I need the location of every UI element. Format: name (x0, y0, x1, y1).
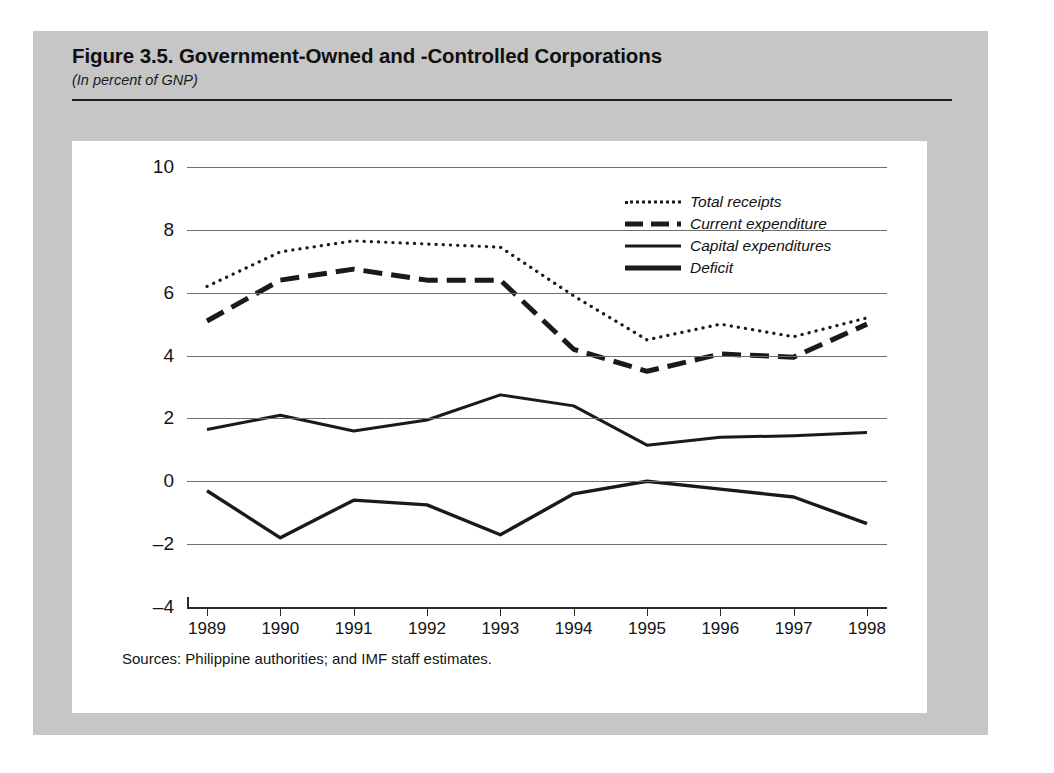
x-axis-tick-label: 1989 (188, 619, 226, 639)
legend-swatch-dashed-icon (625, 217, 681, 231)
chart-legend: Total receipts Current expenditure Capit… (625, 191, 831, 279)
x-axis-tick-mark (280, 607, 281, 616)
y-axis-stub (187, 597, 189, 609)
legend-item: Deficit (625, 257, 831, 279)
x-axis-tick-label: 1994 (555, 619, 593, 639)
x-axis-tick-label: 1990 (261, 619, 299, 639)
title-divider (72, 99, 952, 101)
x-axis-tick-mark (500, 607, 501, 616)
x-axis-tick-mark (354, 607, 355, 616)
x-axis-tick-label: 1992 (408, 619, 446, 639)
legend-label: Deficit (690, 259, 733, 277)
legend-label: Capital expenditures (690, 237, 831, 255)
series-line-deficit (207, 481, 867, 538)
legend-swatch-dotted-icon (625, 195, 681, 209)
y-axis-tick-label: 2 (163, 407, 174, 429)
gridline (187, 544, 887, 545)
gridline (187, 167, 887, 168)
x-axis-tick-mark (867, 607, 868, 616)
legend-swatch-thin-solid-icon (625, 239, 681, 253)
y-axis-tick-label: 0 (163, 470, 174, 492)
x-axis-tick-mark (574, 607, 575, 616)
y-axis-tick-label: 6 (163, 282, 174, 304)
y-axis-tick-label: –2 (153, 533, 174, 555)
x-axis-tick-label: 1991 (335, 619, 373, 639)
legend-swatch-thick-solid-icon (625, 261, 681, 275)
x-axis-tick-mark (720, 607, 721, 616)
x-axis-tick-label: 1996 (701, 619, 739, 639)
gridline (187, 481, 887, 482)
series-line-capital-expenditures (207, 395, 867, 445)
source-note: Sources: Philippine authorities; and IMF… (122, 650, 492, 667)
legend-label: Current expenditure (690, 215, 827, 233)
x-axis-tick-mark (794, 607, 795, 616)
y-axis-tick-label: 8 (163, 219, 174, 241)
legend-label: Total receipts (690, 193, 782, 211)
gridline (187, 356, 887, 357)
x-axis-line (187, 607, 887, 609)
y-axis-tick-label: 4 (163, 345, 174, 367)
y-axis-tick-label: –4 (153, 596, 174, 618)
x-axis-tick-label: 1995 (628, 619, 666, 639)
gridline (187, 293, 887, 294)
legend-item: Capital expenditures (625, 235, 831, 257)
legend-item: Total receipts (625, 191, 831, 213)
x-axis-tick-label: 1998 (848, 619, 886, 639)
x-axis-tick-label: 1993 (481, 619, 519, 639)
gridline (187, 418, 887, 419)
x-axis-tick-mark (207, 607, 208, 616)
legend-item: Current expenditure (625, 213, 831, 235)
figure-subtitle: (In percent of GNP) (72, 73, 952, 89)
x-axis-tick-mark (427, 607, 428, 616)
chart-panel: 1086420–2–419891990199119921993199419951… (72, 141, 927, 713)
x-axis-tick-label: 1997 (775, 619, 813, 639)
page-title: Figure 3.5. Government-Owned and -Contro… (72, 45, 952, 68)
y-axis-tick-label: 10 (153, 156, 174, 178)
x-axis-tick-mark (647, 607, 648, 616)
